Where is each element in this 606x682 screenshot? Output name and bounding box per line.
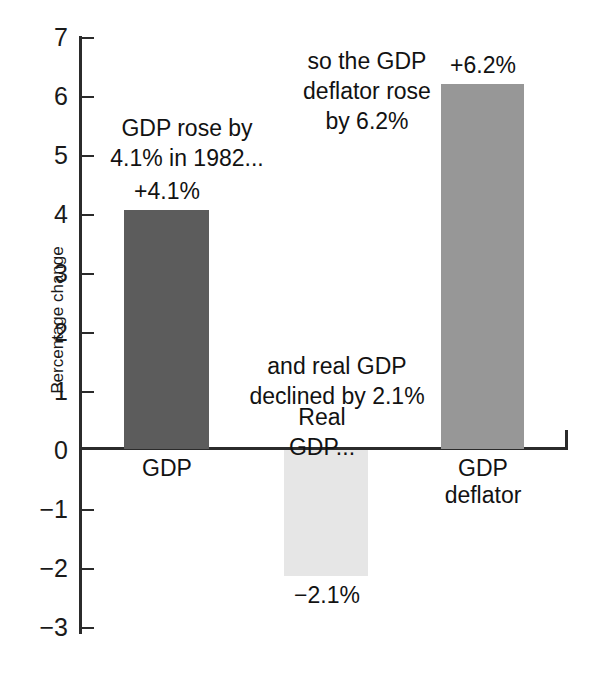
- y-tick-mark-3: [82, 273, 94, 275]
- y-tick-mark-6: [82, 96, 94, 98]
- gdp-deflator-bar-chart: Percentage change 7 6 5 4 3 2 1 0 −1 −2 …: [0, 0, 606, 682]
- value-label-gdp: +4.1%: [112, 178, 222, 204]
- bar-gdp[interactable]: [124, 210, 209, 449]
- category-label-gdp-deflator: GDP deflator: [418, 455, 548, 509]
- y-tick-label-7: 7: [22, 25, 68, 50]
- y-tick-label-4: 4: [22, 202, 68, 227]
- annotation-gdp-deflator: so the GDP deflator rose by 6.2%: [272, 46, 462, 136]
- y-tick-label-neg1: −1: [22, 497, 68, 522]
- y-tick-label-neg2: −2: [22, 556, 68, 581]
- bar-real-gdp[interactable]: [284, 450, 368, 576]
- y-tick-label-5: 5: [22, 143, 68, 168]
- annotation-gdp: GDP rose by 4.1% in 1982...: [82, 113, 292, 173]
- category-label-gdp: GDP: [112, 455, 222, 482]
- y-tick-mark-1: [82, 391, 94, 393]
- y-tick-mark-neg2: [82, 568, 94, 570]
- y-tick-label-neg3: −3: [22, 615, 68, 640]
- y-tick-label-3: 3: [22, 261, 68, 286]
- y-tick-label-2: 2: [22, 320, 68, 345]
- y-tick-label-1: 1: [22, 379, 68, 404]
- y-tick-mark-neg3: [82, 627, 94, 629]
- y-tick-mark-neg1: [82, 509, 94, 511]
- x-axis-end-tick: [565, 430, 568, 450]
- y-tick-mark-2: [82, 332, 94, 334]
- y-tick-mark-7: [82, 37, 94, 39]
- y-tick-label-6: 6: [22, 84, 68, 109]
- y-tick-mark-4: [82, 214, 94, 216]
- category-label-real-gdp: Real GDP...: [262, 402, 382, 462]
- y-tick-label-0: 0: [22, 438, 68, 463]
- value-label-real-gdp: −2.1%: [272, 582, 382, 608]
- plot-area: Percentage change 7 6 5 4 3 2 1 0 −1 −2 …: [0, 0, 606, 682]
- bar-gdp-deflator[interactable]: [441, 84, 524, 449]
